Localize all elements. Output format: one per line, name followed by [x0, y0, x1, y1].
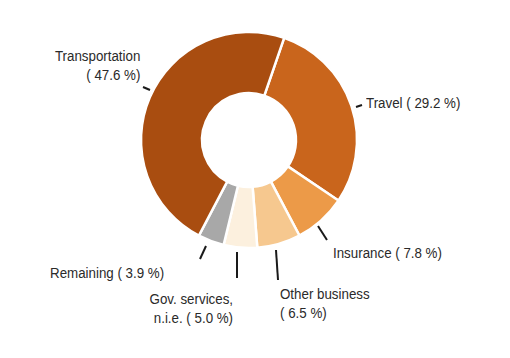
label-transportation-value: ( 47.6 %): [55, 65, 140, 84]
label-other-business-value: ( 6.5 %): [280, 303, 370, 322]
label-gov-services-value: n.i.e. ( 5.0 %): [150, 308, 233, 327]
label-travel: Travel ( 29.2 %): [366, 93, 460, 112]
donut-slices: [141, 32, 357, 248]
label-gov-services-name: Gov. services,: [150, 289, 233, 308]
label-transportation: Transportation ( 47.6 %): [55, 46, 140, 84]
label-gov-services: Gov. services, n.i.e. ( 5.0 %): [150, 289, 233, 327]
label-transportation-name: Transportation: [55, 46, 140, 65]
label-remaining: Remaining ( 3.9 %): [50, 263, 164, 282]
label-other-business: Other business ( 6.5 %): [280, 284, 370, 322]
label-insurance: Insurance ( 7.8 %): [333, 243, 442, 262]
label-other-business-name: Other business: [280, 284, 370, 303]
